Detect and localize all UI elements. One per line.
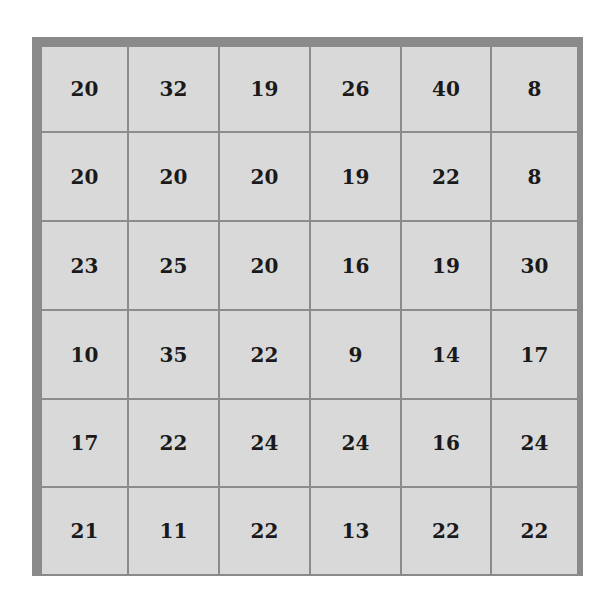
grid-cell[interactable]: 20: [42, 47, 127, 131]
grid-cell[interactable]: 22: [402, 133, 490, 220]
grid-cell[interactable]: 24: [492, 400, 577, 486]
grid-cell[interactable]: 22: [129, 400, 218, 486]
grid-cell[interactable]: 30: [492, 222, 577, 309]
number-grid: 20 32 19 26 40 8 20 20 20 19 22 8 23 25 …: [32, 37, 583, 576]
grid-cell[interactable]: 10: [42, 311, 127, 398]
grid-cell[interactable]: 24: [220, 400, 309, 486]
grid-cell[interactable]: 25: [129, 222, 218, 309]
grid-cell[interactable]: 16: [402, 400, 490, 486]
grid-cell[interactable]: 16: [311, 222, 400, 309]
grid-cell[interactable]: 24: [311, 400, 400, 486]
grid-cell[interactable]: 8: [492, 133, 577, 220]
grid-cell[interactable]: 22: [220, 488, 309, 574]
grid-cell[interactable]: 8: [492, 47, 577, 131]
grid-cell[interactable]: 35: [129, 311, 218, 398]
grid-cell[interactable]: 22: [402, 488, 490, 574]
grid-cell[interactable]: 20: [220, 133, 309, 220]
grid-cell[interactable]: 23: [42, 222, 127, 309]
grid-cell[interactable]: 40: [402, 47, 490, 131]
grid-cell[interactable]: 17: [42, 400, 127, 486]
grid-cell[interactable]: 9: [311, 311, 400, 398]
grid-cell[interactable]: 22: [492, 488, 577, 574]
grid-cell[interactable]: 19: [311, 133, 400, 220]
grid-cell[interactable]: 22: [220, 311, 309, 398]
grid-cell[interactable]: 26: [311, 47, 400, 131]
grid-cell[interactable]: 20: [220, 222, 309, 309]
grid-cell[interactable]: 20: [129, 133, 218, 220]
grid-cell[interactable]: 21: [42, 488, 127, 574]
grid-cell[interactable]: 20: [42, 133, 127, 220]
grid-cell[interactable]: 19: [402, 222, 490, 309]
grid-cell[interactable]: 17: [492, 311, 577, 398]
grid-cell[interactable]: 14: [402, 311, 490, 398]
grid-cell[interactable]: 13: [311, 488, 400, 574]
grid-cell[interactable]: 19: [220, 47, 309, 131]
grid-cell[interactable]: 32: [129, 47, 218, 131]
grid-cell[interactable]: 11: [129, 488, 218, 574]
